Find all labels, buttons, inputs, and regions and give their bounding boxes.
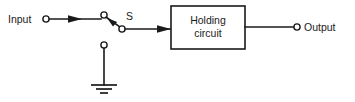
input-flow-arrow-icon (68, 15, 82, 23)
switch-label: S (126, 10, 133, 22)
circuit-schematic-canvas: Input S Holding circuit Output (0, 0, 355, 102)
ground-terminal-circle-icon (101, 42, 107, 48)
switch-contact-terminal-circle-icon (119, 26, 125, 32)
output-terminal-circle-icon (294, 24, 300, 30)
holding-circuit-label-line2: circuit (194, 27, 222, 39)
switch-pointer-arrow-icon (107, 18, 117, 26)
circuit-diagram: Input S Holding circuit Output (0, 0, 355, 102)
ground-symbol (91, 85, 117, 93)
input-label: Input (8, 13, 31, 25)
holding-circuit-label-line1: Holding (190, 14, 226, 26)
input-terminal-circle-icon (43, 16, 49, 22)
output-label: Output (304, 21, 336, 33)
block-input-arrow-icon (157, 25, 171, 33)
